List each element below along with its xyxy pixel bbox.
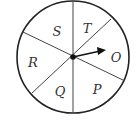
sector-label-q: Q: [55, 84, 66, 99]
spinner-svg: S T O P Q R: [0, 0, 138, 121]
sector-label-r: R: [27, 55, 38, 70]
sector-label-s: S: [53, 24, 62, 39]
spinner-diagram: S T O P Q R: [0, 0, 138, 121]
sector-label-o: O: [111, 50, 122, 65]
sector-label-p: P: [92, 82, 102, 97]
spinner-pivot: [70, 54, 76, 60]
sector-label-t: T: [83, 21, 93, 36]
